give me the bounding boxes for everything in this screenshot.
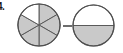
fraction-figure: 4.	[0, 0, 123, 53]
bottom-half	[73, 26, 114, 47]
item-number-label: 4.	[0, 1, 4, 12]
circle-one-svg	[17, 3, 61, 47]
fraction-circle-halves	[72, 4, 115, 47]
circle-two-svg	[72, 4, 115, 47]
top-half	[73, 5, 114, 26]
fraction-circle-six-sectors	[17, 3, 61, 47]
minus-sign-icon	[63, 25, 72, 27]
